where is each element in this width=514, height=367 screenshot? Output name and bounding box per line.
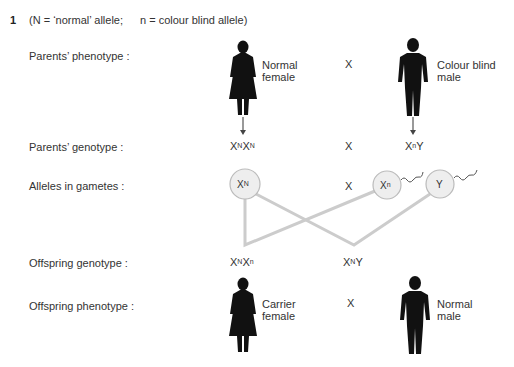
label-line: female [262, 71, 297, 83]
label-line: Colour blind [437, 59, 496, 71]
offspring-male-label: Normal male [437, 298, 472, 322]
cross-symbol: X [347, 297, 354, 310]
sperm-tail-icon [401, 172, 423, 182]
gamete-circle-Y [426, 170, 477, 198]
gamete-Y-label: Y [436, 178, 443, 191]
gamete-Xn-label: Xn [380, 179, 391, 192]
parent-female-genotype: XNXN [230, 140, 255, 153]
label-line: Carrier [262, 298, 296, 310]
arrow-down-icon [410, 117, 416, 135]
label-line: female [262, 310, 296, 322]
cross-symbol: X [345, 140, 352, 153]
offspring-female-genotype: XNXn [230, 256, 254, 269]
normal-male-figure-icon [400, 276, 430, 354]
male-figure-icon [398, 38, 428, 116]
label-line: male [437, 310, 472, 322]
parent-male-genotype: XnY [405, 140, 424, 153]
label-line: male [437, 71, 496, 83]
female-figure-icon [229, 41, 257, 116]
offspring-female-label: Carrier female [262, 298, 296, 322]
arrow-down-icon [240, 117, 246, 135]
cross-symbol: X [345, 180, 352, 193]
carrier-female-figure-icon [229, 278, 257, 353]
gamete-lines [245, 191, 430, 245]
label-line: Normal [262, 59, 297, 71]
parent-female-label: Normal female [262, 59, 297, 83]
label-line: Normal [437, 298, 472, 310]
offspring-male-genotype: XNY [343, 256, 363, 269]
cross-symbol: X [345, 58, 352, 71]
gamete-XN-label: XN [237, 178, 249, 191]
parent-male-label: Colour blind male [437, 59, 496, 83]
sperm-tail-icon [454, 170, 477, 180]
